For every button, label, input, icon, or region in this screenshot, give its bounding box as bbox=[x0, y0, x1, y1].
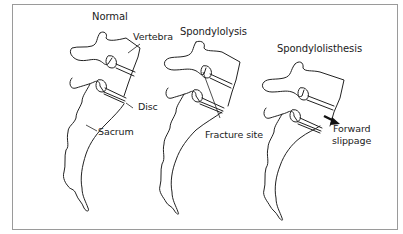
panel-title-spondylolisthesis: Spondylolisthesis bbox=[277, 44, 362, 55]
label-disc: Disc bbox=[138, 102, 158, 112]
panel-title-spondylolysis: Spondylolysis bbox=[180, 27, 247, 38]
label-forward-slippage-line1: Forward bbox=[333, 124, 371, 134]
label-fracture-site: Fracture site bbox=[205, 130, 263, 140]
panel-title-normal: Normal bbox=[92, 12, 128, 23]
label-forward-slippage-line2: slippage bbox=[332, 136, 371, 146]
label-sacrum: Sacrum bbox=[98, 127, 134, 137]
label-vertebra: Vertebra bbox=[133, 32, 173, 42]
spondylolysis-spine-drawing bbox=[160, 41, 240, 214]
normal-spine-drawing bbox=[63, 32, 140, 211]
